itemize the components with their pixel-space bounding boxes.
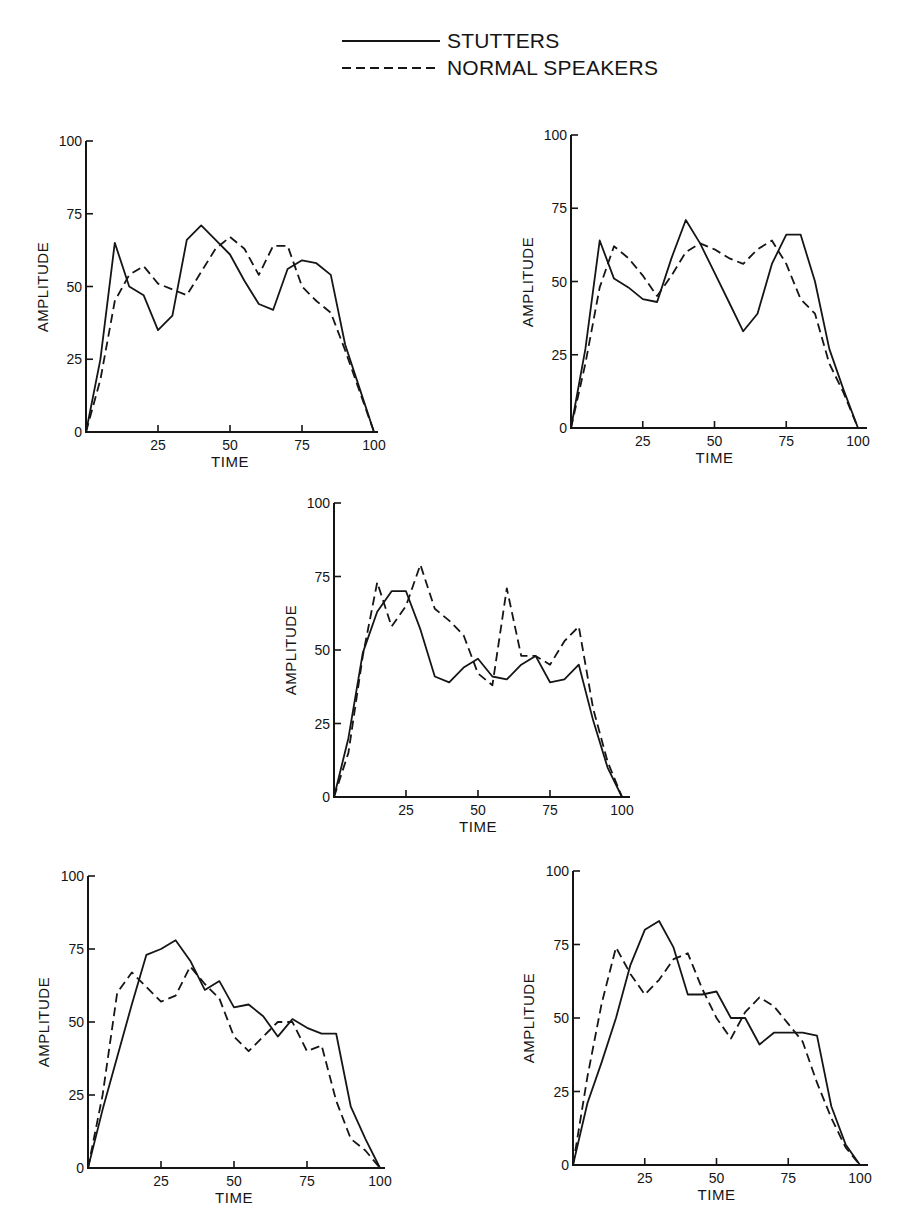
- y-tick-label: 0: [561, 1157, 569, 1173]
- y-tick-label: 75: [551, 200, 567, 216]
- x-axis-title: TIME: [698, 1186, 736, 1203]
- x-tick-label: 25: [635, 433, 651, 449]
- chart-panel-top-left: 0255075100255075100TIMEAMPLITUDE: [34, 133, 386, 470]
- x-tick-label: 50: [222, 437, 238, 453]
- figure: STUTTERS NORMAL SPEAKERS 025507510025507…: [0, 0, 915, 1226]
- y-tick-label: 25: [66, 351, 82, 367]
- x-tick-label: 50: [226, 1173, 242, 1189]
- series-normal-speakers: [571, 241, 858, 429]
- y-tick-label: 100: [546, 863, 570, 879]
- y-tick-label: 25: [553, 1084, 569, 1100]
- y-axis-title: AMPLITUDE: [520, 973, 537, 1063]
- y-axis-title: AMPLITUDE: [34, 242, 51, 332]
- series-stutters: [571, 220, 858, 428]
- x-tick-label: 25: [398, 802, 414, 818]
- series-normal-speakers: [573, 947, 860, 1165]
- x-tick-label: 75: [780, 1170, 796, 1186]
- y-tick-label: 50: [66, 279, 82, 295]
- y-tick-label: 100: [544, 127, 568, 143]
- x-tick-label: 25: [637, 1170, 653, 1186]
- legend-label-stutters: STUTTERS: [447, 29, 559, 52]
- x-tick-label: 25: [153, 1173, 169, 1189]
- x-axis-title: TIME: [211, 453, 249, 470]
- x-axis-title: TIME: [696, 449, 734, 466]
- x-tick-label: 50: [470, 802, 486, 818]
- axes: [334, 503, 630, 797]
- x-tick-label: 100: [848, 1170, 872, 1186]
- series-normal-speakers: [334, 565, 622, 797]
- y-tick-label: 0: [74, 424, 82, 440]
- chart-panels: 0255075100255075100TIMEAMPLITUDE02550751…: [34, 127, 872, 1206]
- axes: [88, 876, 385, 1168]
- x-tick-label: 100: [610, 802, 634, 818]
- x-axis-title: TIME: [215, 1189, 253, 1206]
- y-tick-label: 50: [553, 1010, 569, 1026]
- y-tick-label: 100: [61, 868, 85, 884]
- x-tick-label: 75: [294, 437, 310, 453]
- y-tick-label: 100: [59, 133, 83, 149]
- y-tick-label: 0: [322, 789, 330, 805]
- y-tick-label: 75: [553, 937, 569, 953]
- y-tick-label: 75: [66, 206, 82, 222]
- series-stutters: [86, 225, 374, 432]
- series-stutters: [334, 591, 622, 797]
- y-tick-label: 0: [76, 1160, 84, 1176]
- chart-panel-top-right: 0255075100255075100TIMEAMPLITUDE: [519, 127, 870, 466]
- y-tick-label: 100: [307, 495, 331, 511]
- y-tick-label: 75: [68, 941, 84, 957]
- y-tick-label: 25: [314, 716, 330, 732]
- x-tick-label: 75: [778, 433, 794, 449]
- x-tick-label: 50: [709, 1170, 725, 1186]
- x-tick-label: 25: [150, 437, 166, 453]
- x-tick-label: 50: [707, 433, 723, 449]
- y-axis-title: AMPLITUDE: [519, 237, 536, 327]
- legend-label-normal-speakers: NORMAL SPEAKERS: [447, 56, 658, 79]
- y-tick-label: 50: [68, 1014, 84, 1030]
- x-axis-title: TIME: [459, 818, 497, 835]
- chart-panel-middle: 0255075100255075100TIMEAMPLITUDE: [282, 495, 634, 835]
- y-axis-title: AMPLITUDE: [35, 977, 52, 1067]
- x-tick-label: 100: [368, 1173, 392, 1189]
- y-tick-label: 0: [559, 420, 567, 436]
- x-tick-label: 75: [299, 1173, 315, 1189]
- y-tick-label: 50: [314, 642, 330, 658]
- series-normal-speakers: [86, 237, 374, 432]
- series-stutters: [573, 921, 860, 1165]
- x-tick-label: 100: [362, 437, 386, 453]
- x-tick-label: 100: [846, 433, 870, 449]
- axes: [573, 871, 868, 1165]
- legend: STUTTERS NORMAL SPEAKERS: [342, 29, 658, 79]
- chart-panel-bottom-left: 0255075100255075100TIMEAMPLITUDE: [35, 868, 392, 1206]
- series-stutters: [88, 940, 380, 1168]
- chart-panel-bottom-right: 0255075100255075100TIMEAMPLITUDE: [520, 863, 872, 1203]
- x-tick-label: 75: [542, 802, 558, 818]
- series-normal-speakers: [88, 967, 380, 1169]
- y-tick-label: 75: [314, 569, 330, 585]
- y-axis-title: AMPLITUDE: [282, 605, 299, 695]
- y-tick-label: 50: [551, 274, 567, 290]
- y-tick-label: 25: [551, 347, 567, 363]
- y-tick-label: 25: [68, 1087, 84, 1103]
